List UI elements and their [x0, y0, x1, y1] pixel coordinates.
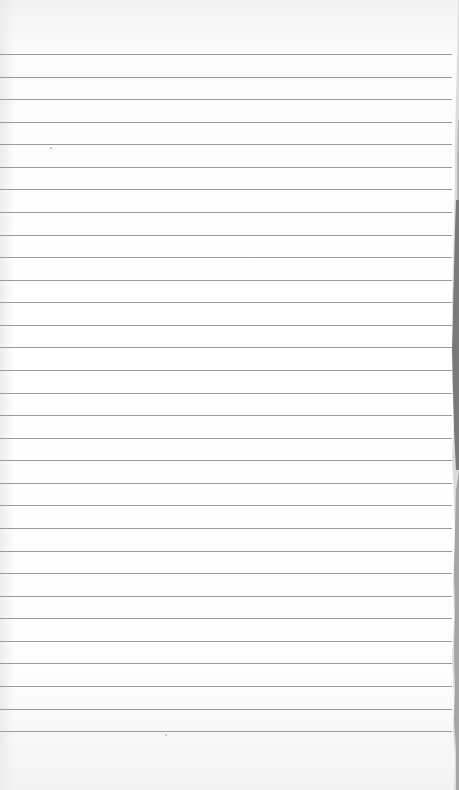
ruled-line — [0, 144, 452, 145]
ruled-line — [0, 483, 452, 484]
paper-speck — [165, 734, 167, 736]
ruled-line — [0, 235, 452, 236]
ruled-line — [0, 347, 452, 348]
ruled-line — [0, 54, 452, 55]
ruled-line — [0, 77, 452, 78]
ruled-line — [0, 709, 452, 710]
ruled-line — [0, 505, 452, 506]
paper-speck — [50, 147, 52, 149]
ruled-line — [0, 393, 452, 394]
ruled-line — [0, 438, 452, 439]
ruled-line — [0, 167, 452, 168]
lined-paper-sheet — [0, 0, 459, 790]
ruled-line — [0, 641, 452, 642]
torn-edge-shadow — [451, 0, 459, 790]
ruled-line — [0, 460, 452, 461]
ruled-line — [0, 257, 452, 258]
ruled-line — [0, 731, 452, 732]
ruled-line — [0, 302, 452, 303]
ruled-line — [0, 686, 452, 687]
ruled-line — [0, 528, 452, 529]
ruled-line — [0, 415, 452, 416]
ruled-line — [0, 189, 452, 190]
ruled-line — [0, 122, 452, 123]
ruled-line — [0, 596, 452, 597]
ruled-line — [0, 280, 452, 281]
ruled-line — [0, 99, 452, 100]
ruled-line — [0, 212, 452, 213]
ruled-line — [0, 325, 452, 326]
ruled-line — [0, 370, 452, 371]
ruled-line — [0, 573, 452, 574]
ruled-line — [0, 551, 452, 552]
ruled-line — [0, 618, 452, 619]
ruled-line — [0, 663, 452, 664]
